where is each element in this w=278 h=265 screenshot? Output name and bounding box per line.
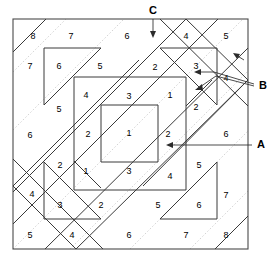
patch-label: 6 bbox=[27, 130, 32, 140]
patch-label: 3 bbox=[57, 200, 62, 210]
patch-label: 7 bbox=[223, 190, 228, 200]
patch-label: 5 bbox=[27, 230, 32, 240]
patch-label: 2 bbox=[57, 160, 62, 170]
patch-label: 7 bbox=[27, 61, 32, 71]
patch-label: 5 bbox=[97, 61, 102, 71]
patch-label: 3 bbox=[126, 91, 131, 101]
patch-label: 4 bbox=[69, 230, 74, 240]
patch-label: 4 bbox=[183, 31, 188, 41]
patch-label: 2 bbox=[85, 129, 90, 139]
patch-label: 2 bbox=[193, 102, 198, 112]
band-notches bbox=[74, 80, 212, 188]
patch-label: 6 bbox=[126, 230, 131, 240]
patch-label: 6 bbox=[124, 31, 129, 41]
patch-label: 1 bbox=[83, 166, 88, 176]
callout-label-c: C bbox=[149, 4, 157, 16]
callout-label-b: B bbox=[259, 79, 267, 91]
patch-label: 4 bbox=[83, 90, 88, 100]
patch-label: 5 bbox=[56, 104, 61, 114]
patch-label: 6 bbox=[56, 61, 61, 71]
patch-label: 5 bbox=[223, 31, 228, 41]
patch-label: 2 bbox=[98, 200, 103, 210]
patch-label-group: 8764576523454312621262134543256754678 bbox=[27, 31, 228, 240]
patch-label: 2 bbox=[165, 129, 170, 139]
patch-label: 3 bbox=[193, 61, 198, 71]
patch-label: 4 bbox=[167, 171, 172, 181]
patch-label: 4 bbox=[29, 189, 34, 199]
callout-c: C bbox=[149, 4, 157, 38]
patch-label: 7 bbox=[183, 230, 188, 240]
patch-label: 2 bbox=[152, 62, 157, 72]
quilt-block-diagram: 8764576523454312621262134543256754678 A … bbox=[0, 0, 278, 265]
patch-label: 6 bbox=[223, 129, 228, 139]
patch-label: 5 bbox=[155, 200, 160, 210]
patch-label: 8 bbox=[223, 230, 228, 240]
patch-label: 3 bbox=[126, 166, 131, 176]
patch-label: 1 bbox=[167, 90, 172, 100]
patch-label: 6 bbox=[196, 200, 201, 210]
patch-label: 5 bbox=[196, 160, 201, 170]
callout-b: B bbox=[194, 53, 267, 91]
patch-label: 8 bbox=[30, 31, 35, 41]
callout-label-a: A bbox=[257, 138, 265, 150]
patch-label: 7 bbox=[68, 31, 73, 41]
diagram-stage: 8764576523454312621262134543256754678 A … bbox=[0, 0, 278, 265]
patch-label: 1 bbox=[126, 128, 131, 138]
